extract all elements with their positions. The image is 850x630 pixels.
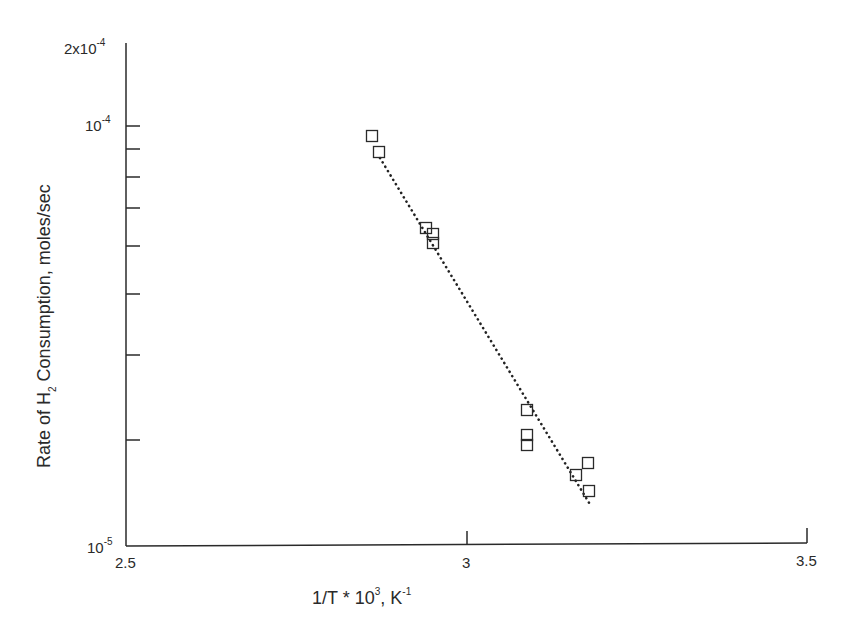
data-points xyxy=(367,131,595,497)
square-marker xyxy=(367,131,378,142)
chart: 2x10-4 10-4 10-5 2.5 3 3.5 1/T * 103, K-… xyxy=(0,0,850,630)
x-tick-label-2-5: 2.5 xyxy=(115,554,136,571)
x-tick-label-3-5: 3.5 xyxy=(796,552,817,569)
y-tick-label-mid: 10-4 xyxy=(85,114,111,134)
square-marker xyxy=(374,147,385,158)
y-axis xyxy=(126,43,140,546)
x-tick-label-3: 3 xyxy=(462,554,470,571)
y-tick-label-bottom: 10-5 xyxy=(87,536,113,556)
y-tick-label-top: 2x10-4 xyxy=(64,37,106,57)
square-marker xyxy=(583,458,594,469)
fit-line xyxy=(380,158,591,506)
square-marker xyxy=(584,486,595,497)
x-axis-title: 1/T * 103, K-1 xyxy=(312,586,412,608)
y-axis-title: Rate of H2 Consumption, moles/sec xyxy=(34,184,58,468)
x-axis xyxy=(126,528,807,546)
square-marker xyxy=(571,470,582,481)
